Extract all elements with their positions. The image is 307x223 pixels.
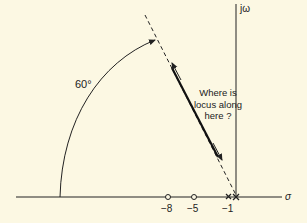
tick-label-minus-1: −1 [222,203,233,214]
annotation-line: Where is [188,87,248,99]
imag-axis-label: jω [240,3,250,14]
annotation-line: here ? [188,110,248,122]
root-locus-diagram [0,0,307,223]
annotation-text: Where is locus along here ? [188,87,248,122]
annotation-line: locus along [188,99,248,111]
angle-label: 60° [75,79,92,90]
zero-marker [166,195,171,200]
angle-arc [60,40,155,197]
tick-label-minus-8: −8 [161,203,172,214]
tick-label-minus-5: −5 [187,203,198,214]
real-axis-label: σ [285,191,291,202]
zero-marker [192,195,197,200]
